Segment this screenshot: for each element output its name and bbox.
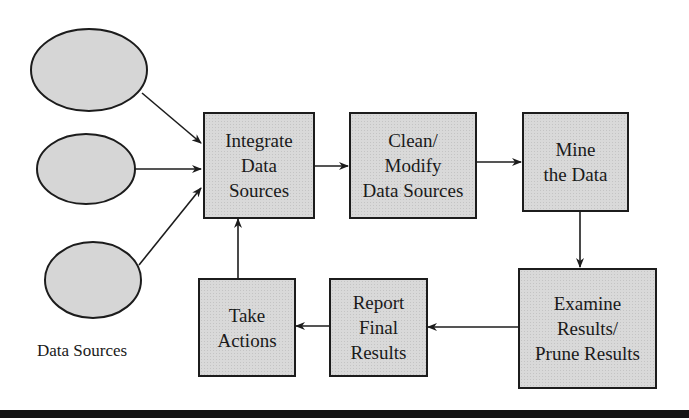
data-source-2 [37, 134, 135, 204]
bottom-rule [0, 410, 689, 418]
arrow-source1-to-integrate [142, 93, 201, 143]
node-label: Report Final Results [351, 290, 407, 365]
node-take-actions: Take Actions [198, 278, 296, 377]
node-integrate-data-sources: Integrate Data Sources [203, 112, 315, 219]
data-source-1 [31, 29, 147, 111]
node-label: Integrate Data Sources [225, 128, 293, 203]
data-sources-caption: Data Sources [37, 341, 127, 361]
node-mine-the-data: Mine the Data [522, 112, 629, 212]
node-examine-prune-results: Examine Results/ Prune Results [518, 268, 657, 389]
node-label: Examine Results/ Prune Results [535, 291, 640, 366]
data-source-3 [45, 242, 141, 318]
arrow-source3-to-integrate [139, 188, 201, 265]
node-clean-modify-data-sources: Clean/ Modify Data Sources [349, 112, 477, 219]
node-label: Clean/ Modify Data Sources [363, 128, 464, 203]
node-label: Take Actions [217, 303, 276, 353]
node-report-final-results: Report Final Results [329, 278, 428, 377]
node-label: Mine the Data [544, 137, 608, 187]
